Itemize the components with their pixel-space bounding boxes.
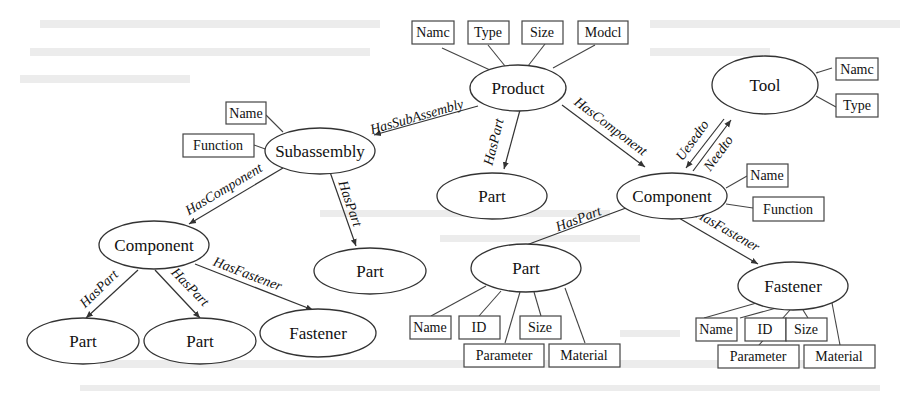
- attr-part-material: Material: [549, 344, 620, 367]
- node-part-mid: Part: [314, 248, 426, 294]
- attr-product-name: Namc: [412, 21, 454, 44]
- attr-fastener-id: ID: [745, 318, 786, 341]
- node-fastener-right: Fastener: [738, 262, 848, 310]
- svg-text:ID: ID: [472, 320, 487, 335]
- attr-component-function: Function: [753, 197, 824, 221]
- attr-part-parameter: Parameter: [464, 344, 544, 367]
- svg-text:Name: Name: [750, 168, 783, 183]
- ontology-diagram: HasSubAssembly HasPart HasComponent Uese…: [0, 0, 911, 395]
- svg-text:Namc: Namc: [416, 25, 449, 40]
- attr-part-name: Name: [410, 316, 451, 339]
- attr-part-id: ID: [459, 316, 500, 339]
- svg-text:Name: Name: [699, 322, 732, 337]
- attr-fastener-parameter: Parameter: [718, 345, 799, 368]
- svg-text:ID: ID: [758, 322, 773, 337]
- svg-text:Part: Part: [69, 332, 97, 351]
- svg-text:Part: Part: [186, 332, 214, 351]
- svg-text:Type: Type: [843, 98, 871, 113]
- node-part-center: Part: [437, 173, 547, 219]
- svg-text:Parameter: Parameter: [730, 349, 787, 364]
- svg-text:Part: Part: [512, 259, 540, 278]
- attr-tool-name: Namc: [836, 58, 878, 80]
- attr-fastener-material: Material: [804, 345, 875, 368]
- node-product: Product: [470, 65, 566, 111]
- svg-text:Part: Part: [478, 187, 506, 206]
- attr-product-type: Type: [468, 21, 509, 44]
- svg-text:Name: Name: [229, 106, 262, 121]
- node-component-left: Component: [99, 221, 209, 269]
- svg-text:Parameter: Parameter: [476, 348, 533, 363]
- svg-text:Type: Type: [474, 25, 502, 40]
- node-component-right: Component: [617, 173, 727, 219]
- svg-text:Modcl: Modcl: [585, 25, 622, 40]
- node-subassembly: Subassembly: [265, 128, 375, 174]
- svg-text:Function: Function: [193, 138, 243, 153]
- attr-product-model: Modcl: [578, 21, 628, 44]
- svg-text:Fastener: Fastener: [289, 324, 347, 343]
- svg-text:Function: Function: [763, 202, 813, 217]
- attr-fastener-name: Name: [696, 318, 737, 341]
- svg-text:Size: Size: [530, 25, 554, 40]
- node-tool: Tool: [712, 56, 818, 114]
- svg-text:Component: Component: [632, 187, 712, 206]
- svg-text:Material: Material: [815, 349, 863, 364]
- svg-text:Tool: Tool: [750, 76, 781, 95]
- svg-text:Component: Component: [114, 236, 194, 255]
- attr-product-size: Size: [522, 21, 563, 44]
- node-part-bottom: Part: [471, 244, 581, 292]
- attr-subassembly-name: Name: [226, 102, 266, 124]
- svg-text:Material: Material: [560, 348, 608, 363]
- svg-text:Namc: Namc: [840, 62, 873, 77]
- svg-text:Size: Size: [528, 320, 552, 335]
- node-part-left2: Part: [144, 318, 256, 364]
- svg-text:Part: Part: [356, 262, 384, 281]
- node-part-left1: Part: [27, 318, 139, 364]
- svg-text:Name: Name: [413, 320, 446, 335]
- attr-tool-type: Type: [836, 94, 878, 117]
- svg-text:Size: Size: [794, 322, 818, 337]
- svg-text:Fastener: Fastener: [764, 277, 822, 296]
- attr-part-size: Size: [520, 316, 561, 339]
- svg-text:Subassembly: Subassembly: [275, 142, 365, 161]
- attr-subassembly-function: Function: [183, 134, 254, 157]
- svg-text:Product: Product: [492, 79, 545, 98]
- attr-component-name: Name: [747, 164, 788, 187]
- attr-fastener-size: Size: [786, 318, 827, 341]
- node-fastener-left: Fastener: [260, 309, 376, 357]
